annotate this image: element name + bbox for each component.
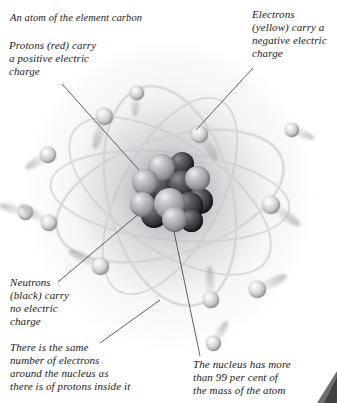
proton-sphere [132, 169, 158, 195]
mass-leader [172, 222, 200, 356]
proton-sphere [130, 192, 155, 217]
caption-nucleus-mass: The nucleus has more than 99 per cent of… [193, 358, 291, 397]
corner-mark-icon [311, 369, 337, 403]
proton-sphere [185, 166, 210, 191]
electrons-leader [196, 68, 253, 130]
caption-electron-count: There is the same number of electrons ar… [10, 341, 130, 392]
caption-title: An atom of the element carbon [10, 12, 142, 24]
same-leader [100, 300, 160, 343]
neutrons-leader [58, 206, 148, 282]
caption-neutrons: Neutrons (black) carry no electric charg… [10, 276, 69, 327]
proton-sphere [162, 207, 187, 232]
figure-canvas: An atom of the element carbon Protons (r… [0, 0, 337, 403]
caption-protons: Protons (red) carry a positive electric … [9, 39, 96, 78]
caption-electrons: Electrons (yellow) carry a negative elec… [252, 8, 327, 59]
protons-leader [62, 84, 148, 180]
